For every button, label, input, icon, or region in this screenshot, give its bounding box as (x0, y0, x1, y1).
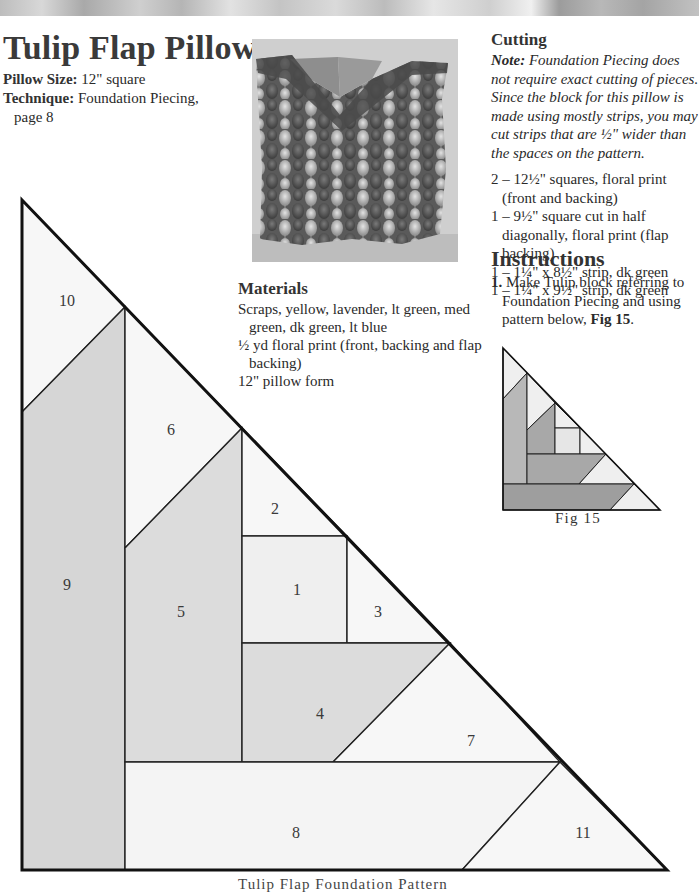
fig-15-diagram (490, 340, 699, 520)
piece-label-5: 5 (177, 603, 185, 620)
pattern-piece-4 (242, 643, 450, 762)
pattern-piece-7 (333, 643, 560, 762)
materials-section: Materials Scraps, yellow, lavender, lt g… (238, 279, 488, 390)
figure-reference: Fig 15 (591, 311, 631, 327)
technique-line: Technique: Foundation Piecing, (3, 89, 243, 108)
pattern-piece-1 (242, 536, 347, 643)
page-title: Tulip Flap Pillow (3, 28, 256, 68)
cutting-heading: Cutting (491, 30, 699, 50)
pattern-piece-9 (22, 307, 125, 870)
instructions-section: Instructions 1. Make Tulip block referri… (491, 247, 699, 329)
header-banner-photo-strip (0, 0, 699, 16)
pattern-piece-10 (22, 200, 125, 412)
pattern-piece-3 (347, 536, 450, 643)
pillow-photo-illustration (252, 39, 458, 262)
pattern-piece-2 (242, 428, 347, 536)
step-number: 1. (491, 274, 502, 290)
pillow-size-line: Pillow Size: 12" square (3, 70, 243, 89)
piece-label-1: 1 (293, 581, 301, 598)
cutting-note-text: Foundation Piecing does not require exac… (491, 52, 698, 161)
piece-label-11: 11 (575, 824, 590, 841)
instruction-step: 1. Make Tulip block referring to Foundat… (491, 273, 699, 329)
technique-page-ref: page 8 (3, 108, 243, 127)
piece-label-2: 2 (271, 500, 279, 517)
piece-label-6: 6 (167, 421, 175, 438)
cutting-item: 2 – 12½" squares, floral print (front an… (491, 170, 699, 207)
piece-label-8: 8 (292, 824, 300, 841)
fig-15-svg (490, 340, 699, 520)
materials-item: ½ yd floral print (front, backing and fl… (238, 336, 488, 372)
pattern-piece-8 (125, 762, 560, 870)
materials-item: Scraps, yellow, lavender, lt green, med … (238, 300, 488, 336)
piece-label-7: 7 (467, 732, 475, 749)
instructions-heading: Instructions (491, 247, 699, 271)
technique-label: Technique: (3, 90, 74, 106)
pattern-caption: Tulip Flap Foundation Pattern (238, 876, 448, 893)
piece-label-10: 10 (59, 292, 75, 309)
project-meta: Pillow Size: 12" square Technique: Found… (3, 70, 243, 127)
piece-label-9: 9 (63, 576, 71, 593)
pillow-photo (252, 39, 458, 262)
pattern-piece-6 (125, 307, 242, 548)
piece-label-4: 4 (316, 705, 324, 722)
pillow-size-label: Pillow Size: (3, 71, 78, 87)
step-end: . (630, 311, 634, 327)
pattern-piece-11 (462, 762, 667, 870)
technique-value: Foundation Piecing, (78, 90, 199, 106)
cutting-note: Note: Foundation Piecing does not requir… (491, 51, 699, 162)
pillow-size-value: 12" square (81, 71, 145, 87)
materials-item: 12" pillow form (238, 372, 488, 390)
piece-label-3: 3 (374, 603, 382, 620)
pattern-piece-5 (125, 428, 242, 762)
fig-piece-1 (555, 428, 580, 454)
materials-heading: Materials (238, 279, 488, 299)
fig-15-caption: Fig 15 (555, 510, 601, 527)
cutting-note-label: Note: (491, 52, 525, 68)
